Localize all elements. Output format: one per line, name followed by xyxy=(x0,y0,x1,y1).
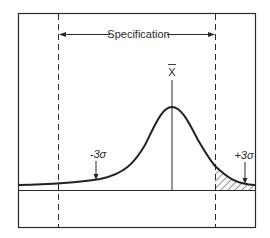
arrowhead-left-icon xyxy=(59,32,66,37)
minus-three-sigma-label: -3σ xyxy=(90,148,107,160)
arrowhead-right-icon xyxy=(208,32,215,37)
diagram-frame xyxy=(19,14,256,228)
process-capability-diagram: Specification X -3σ +3σ xyxy=(0,0,270,238)
mean-label: X xyxy=(168,66,176,78)
out-of-spec-hatched-area xyxy=(215,160,255,191)
plus-three-sigma-label: +3σ xyxy=(234,149,254,161)
specification-label: Specification xyxy=(107,28,169,40)
